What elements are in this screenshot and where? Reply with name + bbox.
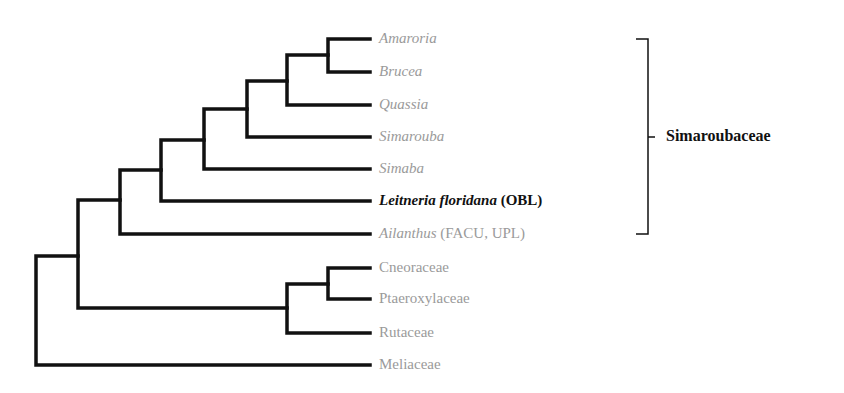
branch-simarouba	[247, 81, 370, 137]
taxon-label-leitneria-floridana: Leitneria floridana (OBL)	[379, 193, 542, 208]
taxon-label-quassia: Quassia	[379, 97, 428, 112]
branch-sapindales-core	[78, 200, 287, 308]
taxon-label-cneoraceae: Cneoraceae	[379, 260, 449, 275]
taxon-label-simarouba: Simarouba	[379, 129, 444, 144]
simaroubaceae-bracket	[636, 39, 655, 234]
branch-simaba	[204, 109, 370, 169]
taxon-label-rutaceae: Rutaceae	[379, 325, 434, 340]
taxon-label-ailanthus: Ailanthus (FACU, UPL)	[379, 226, 525, 241]
branch-cneoraceae-ptaeroxylaceae	[328, 268, 370, 299]
group-label-simaroubaceae: Simaroubaceae	[666, 127, 771, 145]
taxon-label-brucea: Brucea	[379, 64, 422, 79]
branch-amaroria-brucea	[328, 39, 370, 72]
branch-root-meliaceae	[36, 256, 370, 365]
taxon-label-amaroria: Amaroria	[379, 31, 437, 46]
taxon-label-meliaceae: Meliaceae	[379, 357, 441, 372]
tree-branches	[36, 39, 370, 365]
taxon-label-ptaeroxylaceae: Ptaeroxylaceae	[379, 291, 470, 306]
taxon-label-simaba: Simaba	[379, 161, 424, 176]
